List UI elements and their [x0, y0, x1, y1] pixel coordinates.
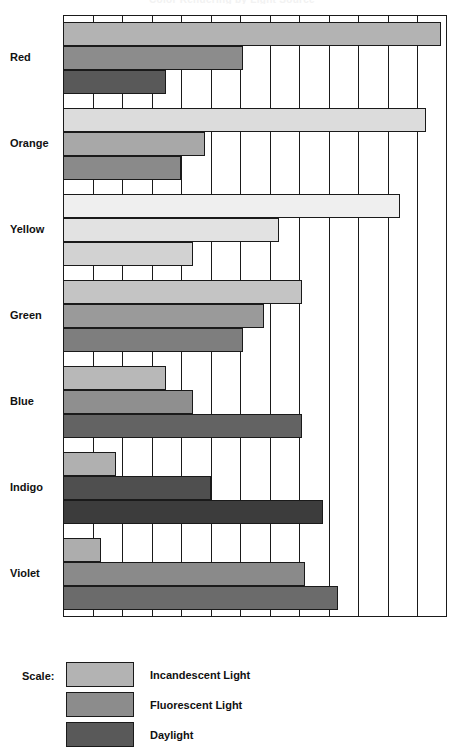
bar: [63, 328, 243, 352]
bar: [63, 280, 302, 304]
bar-group: [63, 359, 447, 445]
bar: [63, 70, 166, 94]
legend-swatch: [66, 662, 134, 687]
legend-swatch: [66, 692, 134, 717]
category-label-orange: Orange: [0, 137, 58, 149]
category-label-red: Red: [0, 51, 58, 63]
bar: [63, 46, 243, 70]
legend-label: Daylight: [150, 729, 193, 741]
bar: [63, 304, 264, 328]
legend-title: Scale:: [22, 670, 54, 682]
bar: [63, 562, 305, 586]
bar: [63, 390, 193, 414]
bar: [63, 414, 302, 438]
bar: [63, 242, 193, 266]
legend-swatch: [66, 722, 134, 747]
bar: [63, 108, 426, 132]
category-label-violet: Violet: [0, 567, 58, 579]
bar: [63, 538, 101, 562]
bar: [63, 194, 400, 218]
legend-item: Daylight: [66, 722, 446, 748]
bar-group: [63, 101, 447, 187]
bar: [63, 586, 338, 610]
category-label-indigo: Indigo: [0, 481, 58, 493]
legend-item: Incandescent Light: [66, 662, 446, 688]
bar: [63, 476, 211, 500]
bar: [63, 132, 205, 156]
legend-label: Fluorescent Light: [150, 699, 242, 711]
bar-group: [63, 273, 447, 359]
bar-group: [63, 531, 447, 617]
bar: [63, 22, 441, 46]
chart-legend: Scale: Incandescent LightFluorescent Lig…: [0, 648, 464, 748]
bar-group: [63, 187, 447, 273]
bar: [63, 156, 181, 180]
bar-group: [63, 445, 447, 531]
chart-title: Color Rendering by Light Source: [0, 0, 464, 4]
bar: [63, 366, 166, 390]
bar: [63, 452, 116, 476]
category-label-blue: Blue: [0, 395, 58, 407]
legend-label: Incandescent Light: [150, 669, 250, 681]
chart-page: Color Rendering by Light Source RedOrang…: [0, 0, 464, 751]
category-label-yellow: Yellow: [0, 223, 58, 235]
bar-group: [63, 15, 447, 101]
bar: [63, 218, 279, 242]
bar: [63, 500, 323, 524]
plot-area: [63, 15, 447, 617]
legend-item: Fluorescent Light: [66, 692, 446, 718]
category-label-green: Green: [0, 309, 58, 321]
